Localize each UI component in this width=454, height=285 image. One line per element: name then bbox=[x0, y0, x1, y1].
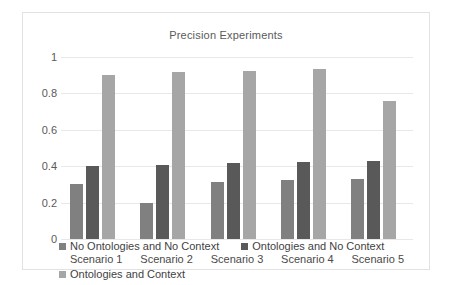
y-axis-tick-label: 0.8 bbox=[23, 87, 57, 99]
legend-swatch-icon bbox=[241, 243, 248, 250]
legend-item-ontologies-and-no-context[interactable]: Ontologies and No Context bbox=[241, 240, 384, 252]
y-axis-tick-label: 0 bbox=[23, 233, 57, 245]
legend-row-primary: No Ontologies and No Context Ontologies … bbox=[59, 238, 439, 254]
bar[interactable] bbox=[156, 165, 169, 239]
legend-label: No Ontologies and No Context bbox=[70, 240, 219, 252]
legend-item-ontologies-and-context[interactable]: Ontologies and Context bbox=[59, 268, 185, 280]
bar[interactable] bbox=[297, 162, 310, 239]
y-axis-tick-label: 1 bbox=[23, 51, 57, 63]
legend-item-no-ontologies-and-no-context[interactable]: No Ontologies and No Context bbox=[59, 240, 219, 252]
bar-group bbox=[351, 57, 396, 239]
legend-swatch-icon bbox=[59, 243, 66, 250]
y-axis-tick-label: 0.6 bbox=[23, 124, 57, 136]
y-axis-tick-label: 0.2 bbox=[23, 197, 57, 209]
bar[interactable] bbox=[243, 71, 256, 239]
bar[interactable] bbox=[281, 180, 294, 239]
plot-area bbox=[61, 57, 413, 239]
bar[interactable] bbox=[140, 203, 153, 239]
bar[interactable] bbox=[227, 163, 240, 239]
bar[interactable] bbox=[172, 72, 185, 239]
bar[interactable] bbox=[86, 166, 99, 239]
chart-legend: No Ontologies and No Context Ontologies … bbox=[59, 238, 439, 282]
legend-label: Ontologies and Context bbox=[70, 268, 185, 280]
y-axis: 00.20.40.60.81 bbox=[23, 57, 57, 239]
legend-row-secondary: Ontologies and Context bbox=[59, 266, 439, 282]
bar[interactable] bbox=[367, 161, 380, 239]
bar-group bbox=[140, 57, 185, 239]
bar-group bbox=[70, 57, 115, 239]
chart-container: Precision Experiments 00.20.40.60.81 Sce… bbox=[22, 12, 430, 270]
y-axis-tick-label: 0.4 bbox=[23, 160, 57, 172]
bar-group bbox=[211, 57, 256, 239]
bar-group bbox=[281, 57, 326, 239]
bar[interactable] bbox=[70, 184, 83, 239]
bar[interactable] bbox=[351, 179, 364, 239]
chart-title: Precision Experiments bbox=[23, 29, 429, 41]
legend-swatch-icon bbox=[59, 271, 66, 278]
bar[interactable] bbox=[211, 182, 224, 239]
legend-label: Ontologies and No Context bbox=[252, 240, 384, 252]
bar[interactable] bbox=[383, 101, 396, 239]
bar[interactable] bbox=[313, 69, 326, 239]
bar[interactable] bbox=[102, 75, 115, 239]
